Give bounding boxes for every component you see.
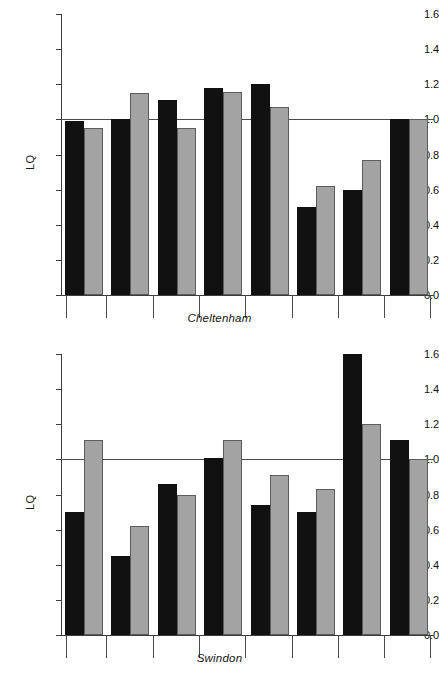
bar-series-2-light-cat-2 (130, 526, 149, 635)
bar-series-1-dark-cat-5 (251, 84, 270, 295)
bar-series-1-dark-cat-6 (297, 512, 316, 635)
bar-series-1-dark-cat-8 (390, 440, 409, 635)
y-axis-tick (56, 600, 62, 601)
y-axis-tick (56, 260, 62, 261)
bar-series-1-dark-cat-8 (390, 119, 409, 295)
y-axis-tick (56, 530, 62, 531)
y-axis-tick-label: 1.4 (393, 383, 439, 395)
bar-series-1-dark-cat-3 (158, 484, 177, 635)
bar-series-2-light-cat-7 (362, 424, 381, 635)
y-axis-tick (56, 424, 62, 425)
bar-series-1-dark-cat-4 (204, 458, 223, 635)
bar-series-1-dark-cat-5 (251, 505, 270, 635)
y-axis-tick-label: 1.6 (393, 348, 439, 360)
y-axis-tick (56, 14, 62, 15)
y-axis-tick (56, 155, 62, 156)
bar-series-2-light-cat-3 (177, 128, 196, 295)
y-axis-tick-label: 1.4 (393, 43, 439, 55)
bar-series-1-dark-cat-1 (65, 121, 84, 295)
bar-series-2-light-cat-1 (84, 128, 103, 295)
y-axis-tick (56, 389, 62, 390)
y-axis-tick (56, 354, 62, 355)
bar-series-2-light-cat-2 (130, 93, 149, 295)
x-axis-caption: Swindon (0, 652, 439, 664)
bar-series-2-light-cat-6 (316, 186, 335, 295)
y-axis-tick-label: 1.2 (393, 418, 439, 430)
bar-series-2-light-cat-3 (177, 495, 196, 636)
bar-series-1-dark-cat-3 (158, 100, 177, 295)
bar-series-2-light-cat-5 (270, 107, 289, 295)
bar-series-2-light-cat-4 (223, 440, 242, 635)
y-axis-tick (56, 49, 62, 50)
bar-series-1-dark-cat-6 (297, 207, 316, 295)
bar-series-1-dark-cat-2 (111, 556, 130, 635)
y-axis-tick-label: 1.2 (393, 78, 439, 90)
y-axis-tick (56, 190, 62, 191)
bar-series-1-dark-cat-4 (204, 88, 223, 295)
bar-series-2-light-cat-8 (409, 119, 428, 295)
bar-series-1-dark-cat-1 (65, 512, 84, 635)
bar-series-2-light-cat-6 (316, 489, 335, 635)
bar-series-1-dark-cat-2 (111, 119, 130, 295)
bar-series-2-light-cat-5 (270, 475, 289, 635)
y-axis-tick (56, 225, 62, 226)
bar-series-2-light-cat-1 (84, 440, 103, 635)
bar-series-2-light-cat-4 (223, 92, 242, 295)
y-axis-tick (56, 495, 62, 496)
x-axis-line (61, 295, 434, 296)
bar-series-1-dark-cat-7 (343, 354, 362, 635)
y-axis-title: LQ (24, 155, 36, 170)
x-axis-caption: Cheltenham (0, 312, 439, 324)
x-axis-line (61, 635, 434, 636)
y-axis-tick-label: 1.6 (393, 8, 439, 20)
bar-series-1-dark-cat-7 (343, 190, 362, 295)
y-axis-tick (56, 84, 62, 85)
chart-swindon: LQ0.00.20.40.60.81.01.21.41.6Swindon (0, 340, 439, 680)
y-axis-title: LQ (24, 495, 36, 510)
bar-series-2-light-cat-7 (362, 160, 381, 295)
chart-cheltenham: LQ0.00.20.40.60.81.01.21.41.6Cheltenham (0, 0, 439, 340)
bar-series-2-light-cat-8 (409, 459, 428, 635)
y-axis-tick (56, 565, 62, 566)
